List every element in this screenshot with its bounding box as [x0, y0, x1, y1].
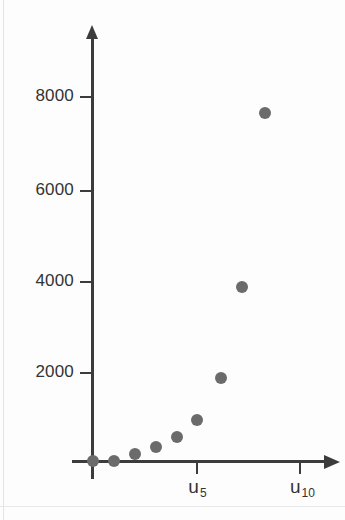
y-axis-line	[91, 36, 94, 479]
x-tick-mark-u10	[299, 461, 301, 474]
y-tick-mark-4000	[80, 281, 93, 283]
data-point	[259, 107, 271, 119]
data-point	[215, 372, 227, 384]
y-tick-label-6000: 6000	[8, 180, 74, 200]
chart-canvas: 8000 6000 4000 2000 u5 u10	[0, 0, 345, 520]
scatter-plot: 8000 6000 4000 2000 u5 u10	[0, 0, 345, 520]
data-point	[129, 448, 141, 460]
data-point	[150, 441, 162, 453]
y-axis-arrow-icon	[86, 25, 98, 39]
data-point	[191, 414, 203, 426]
x-tick-label-u10: u10	[290, 476, 314, 498]
data-point	[236, 281, 248, 293]
y-tick-mark-8000	[80, 96, 93, 98]
data-point	[108, 455, 120, 467]
data-point-origin	[87, 455, 99, 467]
y-tick-mark-6000	[80, 190, 93, 192]
data-point	[171, 431, 183, 443]
y-tick-label-8000: 8000	[8, 86, 74, 106]
y-tick-label-4000: 4000	[8, 271, 74, 291]
y-tick-label-2000: 2000	[8, 362, 74, 382]
x-axis-arrow-icon	[324, 455, 340, 469]
x-tick-mark-u5	[196, 461, 198, 474]
y-tick-mark-2000	[80, 372, 93, 374]
x-tick-label-u5: u5	[188, 476, 205, 498]
